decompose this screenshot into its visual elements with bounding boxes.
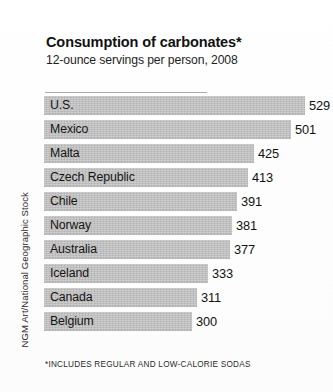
bar-row: Chile391 xyxy=(44,192,333,211)
bar-value-label: 377 xyxy=(234,240,255,259)
bar-category-label: Mexico xyxy=(50,120,88,139)
bar-value-label: 413 xyxy=(252,168,273,187)
bar-row: Mexico501 xyxy=(44,120,333,139)
bar xyxy=(44,96,305,115)
bar-category-label: Czech Republic xyxy=(50,168,135,187)
bar-value-label: 501 xyxy=(295,120,316,139)
bar-value-label: 425 xyxy=(258,144,279,163)
bar-chart-plot-area: U.S.529Mexico501Malta425Czech Republic41… xyxy=(44,96,333,336)
bar-row: Canada311 xyxy=(44,288,333,307)
chart-footnote: *INCLUDES REGULAR AND LOW-CALORIE SODAS xyxy=(45,360,251,369)
bar-row: Norway381 xyxy=(44,216,333,235)
chart-header: Consumption of carbonates* 12-ounce serv… xyxy=(46,34,321,68)
page-title: Consumption of carbonates* xyxy=(46,34,321,51)
bar-category-label: Iceland xyxy=(50,264,89,283)
bar-category-label: Norway xyxy=(50,216,91,235)
bar-row: Belgium300 xyxy=(44,312,333,331)
bar-value-label: 311 xyxy=(201,288,221,307)
header-divider xyxy=(45,92,207,93)
bar-row: Iceland333 xyxy=(44,264,333,283)
chart-subtitle: 12-ounce servings per person, 2008 xyxy=(46,52,321,68)
bar-category-label: U.S. xyxy=(50,96,74,115)
bar-value-label: 333 xyxy=(212,264,233,283)
bar-category-label: Chile xyxy=(50,192,78,211)
bar-value-label: 300 xyxy=(196,312,217,331)
bar-category-label: Canada xyxy=(50,288,92,307)
bar-value-label: 391 xyxy=(241,192,262,211)
bar-category-label: Malta xyxy=(50,144,80,163)
bar-category-label: Belgium xyxy=(50,312,94,331)
bar-row: Czech Republic413 xyxy=(44,168,333,187)
bar-row: U.S.529 xyxy=(44,96,333,115)
chart-page: NGM Art/National Geographic Stock Consum… xyxy=(0,0,333,392)
source-credit: NGM Art/National Geographic Stock xyxy=(19,128,30,348)
bar-value-label: 529 xyxy=(309,96,330,115)
bar-row: Australia377 xyxy=(44,240,333,259)
bar-value-label: 381 xyxy=(236,216,257,235)
bar-row: Malta425 xyxy=(44,144,333,163)
bar-category-label: Australia xyxy=(50,240,97,259)
